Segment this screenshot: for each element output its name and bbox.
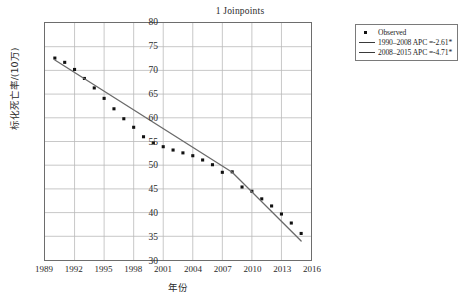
legend-label: 2008–2015 APC =-4.71* — [378, 48, 452, 57]
legend-item-1: 1990–2008 APC =-2.61* — [359, 37, 452, 47]
series-layer — [45, 23, 311, 260]
joinpoint-chart-figure: 1 Joinpoints 3035404550556065707580 1989… — [0, 0, 476, 306]
y-tick-35: 35 — [118, 232, 158, 242]
plot-area — [44, 22, 312, 261]
y-tick-65: 65 — [118, 89, 158, 99]
legend-label: Observed — [378, 28, 406, 37]
legend-label: 1990–2008 APC =-2.61* — [378, 38, 452, 47]
y-tick-60: 60 — [118, 113, 158, 123]
y-tick-40: 40 — [118, 208, 158, 218]
y-tick-45: 45 — [118, 184, 158, 194]
x-axis-title: 年份 — [128, 280, 228, 294]
y-tick-55: 55 — [118, 137, 158, 147]
legend-item-0: Observed — [359, 27, 452, 37]
trend-line-icon — [359, 37, 375, 47]
y-axis-title: 标化死亡率/(10万) — [7, 29, 21, 149]
y-tick-70: 70 — [118, 65, 158, 75]
chart-title: 1 Joinpoints — [170, 6, 310, 16]
y-tick-50: 50 — [118, 160, 158, 170]
trend-line-icon — [359, 47, 375, 57]
chart-legend: Observed1990–2008 APC =-2.61*2008–2015 A… — [355, 24, 458, 61]
x-tick-2016: 2016 — [292, 264, 332, 274]
legend-item-2: 2008–2015 APC =-4.71* — [359, 47, 452, 57]
y-tick-80: 80 — [118, 17, 158, 27]
observed-marker-icon — [359, 27, 375, 37]
y-tick-75: 75 — [118, 41, 158, 51]
